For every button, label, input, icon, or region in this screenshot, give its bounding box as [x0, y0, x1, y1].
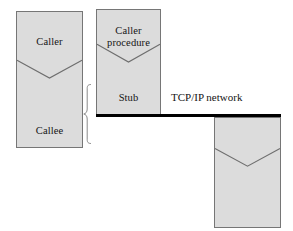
node-caller-procedure-label: Caller procedure — [97, 25, 160, 48]
node-caller-procedure-stub: Caller procedure Stub — [96, 9, 161, 117]
node-caller-procedure-label-line2: procedure — [97, 37, 160, 49]
brace-caller-callee — [83, 84, 92, 144]
node-caller-callee-upper-label: Caller — [17, 36, 82, 48]
node-stub-label: Stub — [97, 92, 160, 104]
curly-brace-icon — [83, 84, 92, 144]
tcpip-network-label: TCP/IP network — [171, 91, 242, 103]
node-caller-procedure-label-line1: Caller — [97, 25, 160, 37]
diagram-canvas: Caller Callee Caller procedure Stub TCP/… — [0, 0, 293, 231]
node-skeleton-callee-procedure: Skeleton Callee procedure — [214, 117, 281, 228]
skeleton-callee-chevron-icon — [215, 118, 280, 227]
node-caller-callee-lower-label: Callee — [17, 125, 82, 137]
node-caller-callee: Caller Callee — [16, 11, 83, 148]
